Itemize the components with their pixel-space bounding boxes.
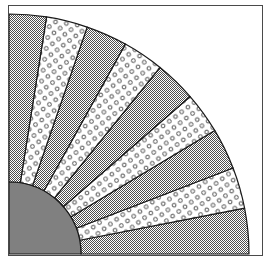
figure-root [0, 0, 275, 263]
fan-diagram [0, 0, 275, 263]
